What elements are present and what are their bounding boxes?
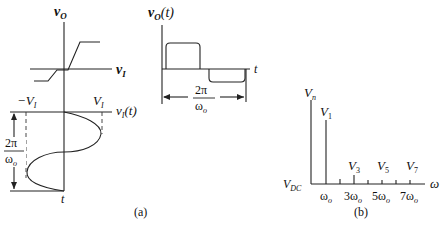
out-period-denominator: ωo <box>195 99 207 115</box>
positive-pulse <box>166 43 200 69</box>
panel-a-label: (a) <box>134 205 147 219</box>
neg-vi-label: −VI <box>17 93 37 110</box>
vo-t-label: vO(t) <box>148 5 174 22</box>
v3-label: V3 <box>348 158 360 175</box>
freq-label-5: 5ωo <box>372 189 390 205</box>
transfer-curve <box>34 42 100 81</box>
transfer-characteristic: vO vI <box>30 4 126 102</box>
v5-label: V5 <box>377 158 389 175</box>
figure-canvas: vO vI −VI VI vI(t) 2π ωo t vO(t <box>0 0 443 228</box>
input-waveform: −VI VI vI(t) 2π ωo t <box>4 93 137 206</box>
v7-label: V7 <box>406 158 418 175</box>
pos-vi-label: VI <box>93 93 104 110</box>
period-numerator: 2π <box>5 136 17 150</box>
vdc-label: VDC <box>283 177 302 193</box>
vi-axis-label: vI <box>116 62 126 79</box>
vi-t-label: vI(t) <box>116 103 137 120</box>
negative-pulse <box>209 69 245 82</box>
t-label-output: t <box>254 62 258 76</box>
out-period-numerator: 2π <box>195 83 207 97</box>
freq-label-1: ωo <box>320 189 332 205</box>
omega-axis-label: ω <box>430 176 439 191</box>
freq-label-7: 7ωo <box>400 189 418 205</box>
vo-axis-label: vO <box>54 4 67 21</box>
v1-label: V1 <box>320 104 332 121</box>
spectrum-plot: Vn ω VDC V1 V3 V5 V7 ωo <box>283 85 439 205</box>
output-waveform: vO(t) t 2π ωo <box>148 5 258 115</box>
t-label-input: t <box>61 192 65 206</box>
panel-b-label: (b) <box>354 205 368 219</box>
vn-axis-label: Vn <box>304 85 316 102</box>
freq-label-3: 3ωo <box>344 189 362 205</box>
